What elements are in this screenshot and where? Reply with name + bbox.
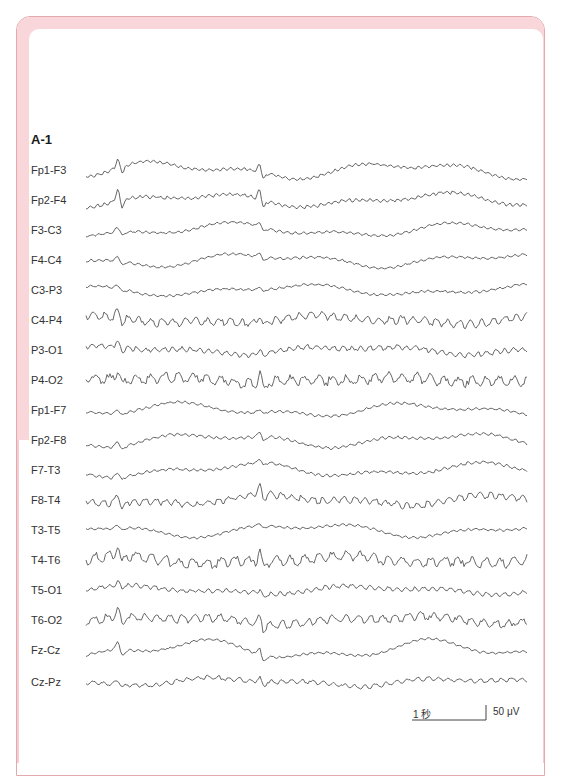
scale-bar-amplitude-label: 50 μV (493, 706, 519, 717)
eeg-trace-t5-o1 (86, 581, 527, 597)
scale-bar-time-label: 1 秒 (413, 706, 431, 721)
eeg-trace-c3-p3 (86, 284, 527, 297)
eeg-trace-fp1-f7 (86, 401, 527, 418)
eeg-trace-f3-c3 (86, 222, 527, 237)
eeg-trace-group (86, 159, 527, 689)
eeg-trace-t4-t6 (86, 548, 527, 569)
eeg-trace-f8-t4 (86, 483, 527, 509)
eeg-trace-f7-t3 (86, 460, 527, 480)
eeg-trace-fz-cz (86, 638, 527, 661)
eeg-trace-t3-t5 (86, 524, 527, 539)
eeg-trace-fp2-f4 (86, 189, 527, 209)
eeg-trace-fp1-f3 (86, 159, 527, 180)
eeg-trace-p3-o1 (86, 341, 527, 358)
eeg-trace-fp2-f8 (86, 432, 527, 449)
eeg-trace-p4-o2 (86, 371, 527, 389)
eeg-trace-f4-c4 (86, 253, 527, 269)
eeg-trace-c4-p4 (86, 309, 527, 329)
eeg-trace-cz-pz (86, 675, 527, 689)
eeg-trace-t6-o2 (86, 607, 527, 632)
